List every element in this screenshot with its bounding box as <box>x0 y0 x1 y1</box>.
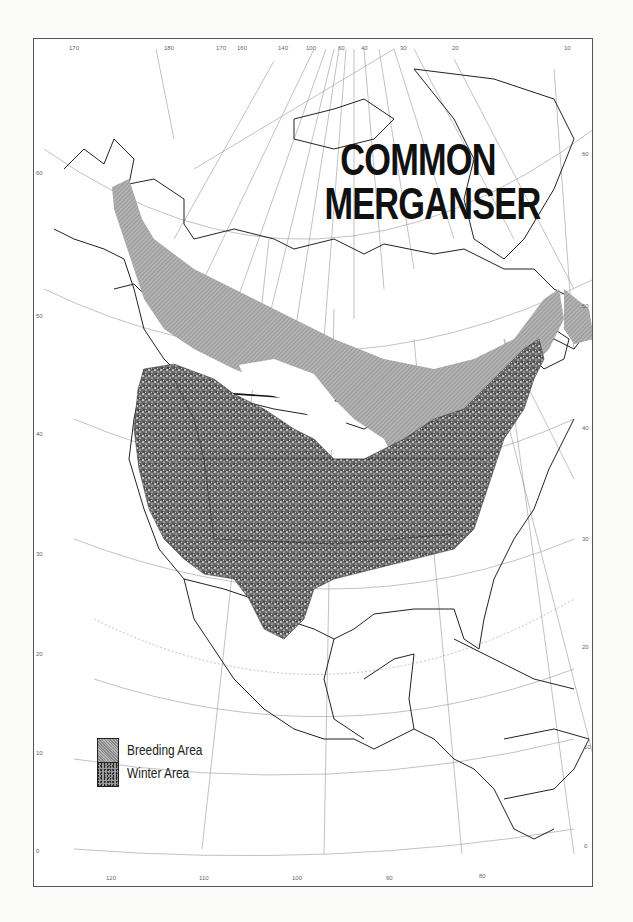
lat-label: 40 <box>36 431 43 437</box>
breeding-swatch <box>97 738 119 763</box>
lon-label: 170 <box>69 45 79 51</box>
lat-label: 0 <box>584 843 587 849</box>
lat-label: 20 <box>36 651 43 657</box>
legend-label-winter: Winter Area <box>127 765 189 781</box>
lon-label: 180 <box>164 45 174 51</box>
lat-label: 10 <box>584 744 591 750</box>
lat-label: 10 <box>36 750 43 756</box>
lon-label: 170 <box>216 45 226 51</box>
lat-label: 50 <box>582 303 589 309</box>
title-line-2: MERGANSER <box>324 182 496 226</box>
lon-label: 10 <box>564 45 571 51</box>
lon-label: 80 <box>479 873 486 879</box>
lon-label: 100 <box>292 875 302 881</box>
lat-label: 60 <box>36 170 43 176</box>
title-line-1: COMMON <box>340 135 495 184</box>
lon-label: 160 <box>237 45 247 51</box>
lon-label: 30 <box>400 45 407 51</box>
lat-label: 30 <box>36 551 43 557</box>
lat-label: 50 <box>36 313 43 319</box>
legend-label-breeding: Breeding Area <box>127 742 202 758</box>
lat-label: 60 <box>582 151 589 157</box>
lon-label: 110 <box>199 875 209 881</box>
map-title: COMMON MERGANSER <box>340 138 496 226</box>
lat-label: 20 <box>582 644 589 650</box>
lon-label: 90 <box>386 875 393 881</box>
lon-label: 40 <box>361 45 368 51</box>
lat-label: 30 <box>582 536 589 542</box>
lon-label: 140 <box>278 45 288 51</box>
lon-label: 60 <box>338 45 345 51</box>
lon-label: 100 <box>306 45 316 51</box>
lat-label: 0 <box>36 848 39 854</box>
lat-label: 40 <box>582 425 589 431</box>
lon-label: 120 <box>106 875 116 881</box>
winter-swatch <box>97 762 119 787</box>
lon-label: 20 <box>452 45 459 51</box>
